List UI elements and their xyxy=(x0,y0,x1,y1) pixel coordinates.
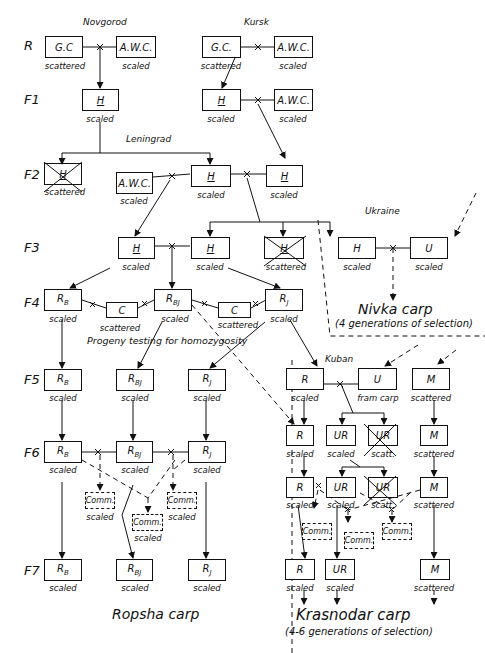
node-kuban-comm-2: Comm. xyxy=(344,532,374,549)
node-f6-comm-3-caption: scaled xyxy=(168,512,195,522)
node-f2-awc-caption: scaled xyxy=(120,196,147,206)
nivka-carp-subtitle: (4 generations of selection) xyxy=(335,318,473,329)
node-kuban-ur-culled-3: UR xyxy=(368,477,398,498)
region-novgorod: Novgorod xyxy=(83,17,127,27)
node-f5-rbj-caption: scaled xyxy=(121,393,148,403)
node-novgorod-gc-caption: scattered xyxy=(45,61,85,71)
node-kuban-ur-culled-2-caption: scatt. xyxy=(371,449,395,459)
node-f5-rb: RB xyxy=(44,369,82,391)
node-f5-rj-caption: scaled xyxy=(193,393,220,403)
generation-label-f2: F2 xyxy=(24,167,40,182)
node-f6-comm-2: Comm. xyxy=(132,514,163,531)
node-f5-rb-caption: scaled xyxy=(49,393,76,403)
node-f3-hybrid-culled: H xyxy=(264,237,304,259)
node-ukraine-hybrid-caption: scaled xyxy=(343,262,370,272)
node-f6-comm-1: Comm. xyxy=(85,492,115,509)
node-f5-rbj: RBJ xyxy=(116,369,154,391)
node-kursk-gc-caption: scattered xyxy=(201,61,241,71)
node-kuban-m-caption: scattered xyxy=(411,393,451,403)
krasnodar-carp-title: Krasnodar carp xyxy=(296,606,410,624)
generation-label-f7: F7 xyxy=(24,563,40,578)
node-kuban-r-2: R xyxy=(286,425,314,446)
node-f6-comm-2-caption: scaled xyxy=(134,533,161,543)
node-f4-c1: C xyxy=(106,302,138,318)
node-f1-hybrid-novgorod: H xyxy=(82,89,119,111)
node-f7-rbj: RBJ xyxy=(116,559,153,581)
node-f7-rb: RB xyxy=(44,559,82,581)
node-kuban-ur-3: UR xyxy=(326,477,356,498)
node-f2-hybrid-culled: H xyxy=(44,163,82,185)
node-f6-rbj-caption: scaled xyxy=(121,465,148,475)
node-kuban-u-caption: fram carp xyxy=(357,393,398,403)
node-f4-rb: RB xyxy=(44,289,82,311)
node-kuban-ur-3-caption: scaled xyxy=(327,500,354,510)
node-kuban-m-2-caption: scattered xyxy=(414,449,454,459)
generation-label-r: R xyxy=(24,38,33,53)
node-f4-rbj: RBJ xyxy=(154,289,192,311)
node-ukraine-u-caption: scaled xyxy=(415,262,442,272)
node-f1-hybrid-novgorod-caption: scaled xyxy=(86,114,113,124)
node-novgorod-awc-caption: scaled xyxy=(122,61,149,71)
region-kursk: Kursk xyxy=(244,17,269,27)
region-ukraine: Ukraine xyxy=(365,206,400,216)
generation-label-f1: F1 xyxy=(24,92,40,107)
node-kuban-m-final: M xyxy=(420,559,450,580)
node-f2-hybrid-a-caption: scaled xyxy=(197,190,224,200)
node-f4-c2: C xyxy=(218,302,251,318)
node-f1-awc: A.W.C. xyxy=(274,89,313,111)
node-kuban-comm-1: Comm. xyxy=(302,523,332,540)
krasnodar-carp-subtitle: (4-6 generations of selection) xyxy=(285,626,433,637)
node-f3-hybrid-culled-caption: scattered xyxy=(266,262,306,272)
node-f4-rj: RJ xyxy=(265,289,303,311)
node-f4-rbj-caption: scaled xyxy=(161,314,188,324)
node-f5-rj: RJ xyxy=(188,369,226,391)
node-f7-rb-caption: scaled xyxy=(49,583,76,593)
node-novgorod-gc: G.C xyxy=(45,36,83,58)
node-kuban-m: M xyxy=(412,368,450,390)
node-f1-hybrid-kursk: H xyxy=(202,89,241,111)
node-ukraine-hybrid: H xyxy=(338,237,376,259)
node-kuban-m-2: M xyxy=(420,425,448,446)
node-kuban-r-final: R xyxy=(285,559,315,580)
node-f6-comm-3: Comm. xyxy=(167,492,197,509)
node-f2-hybrid-culled-caption: scattered xyxy=(45,187,85,197)
region-kuban: Kuban xyxy=(325,354,353,364)
node-kursk-awc-caption: scaled xyxy=(279,61,306,71)
node-f4-rj-caption: scaled xyxy=(270,314,297,324)
node-f1-hybrid-kursk-caption: scaled xyxy=(207,114,234,124)
node-f7-rj-caption: scaled xyxy=(193,583,220,593)
node-kursk-gc: G.C. xyxy=(202,36,241,58)
node-f3-hybrid-b-caption: scaled xyxy=(196,262,223,272)
node-f2-hybrid-b: H xyxy=(266,165,303,187)
node-f3-hybrid-b: H xyxy=(191,237,230,259)
node-f6-rj-caption: scaled xyxy=(193,465,220,475)
node-kuban-m-final-caption: scattered xyxy=(414,583,454,593)
node-f4-c2-caption: scattered xyxy=(218,320,258,330)
node-f7-rj: RJ xyxy=(188,559,226,581)
node-kuban-ur-2: UR xyxy=(326,425,356,446)
ropsha-carp-title: Ropsha carp xyxy=(112,606,199,622)
generation-label-f5: F5 xyxy=(24,372,40,387)
progeny-testing-note: Progeny testing for homozygosity xyxy=(87,335,247,346)
node-f2-hybrid-a: H xyxy=(191,165,231,187)
node-kuban-r-final-caption: scaled xyxy=(286,583,313,593)
node-kuban-r: R xyxy=(286,368,324,390)
generation-label-f6: F6 xyxy=(24,445,40,460)
node-f4-c1-caption: scattered xyxy=(100,323,140,333)
node-ukraine-u: U xyxy=(410,237,448,259)
node-f2-awc: A.W.C. xyxy=(116,172,153,194)
node-f4-rb-caption: scaled xyxy=(49,314,76,324)
node-kuban-ur-culled-3-caption: scatt. xyxy=(371,500,395,510)
node-f6-rb: RB xyxy=(44,441,82,463)
node-f6-rb-caption: scaled xyxy=(49,465,76,475)
node-kuban-ur-final: UR xyxy=(325,559,355,580)
node-kuban-m-3-caption: scattered xyxy=(414,500,454,510)
generation-label-f4: F4 xyxy=(24,295,40,310)
node-f1-awc-caption: scaled xyxy=(279,114,306,124)
node-f6-comm-1-caption: scaled xyxy=(86,512,113,522)
node-kuban-r-2-caption: scaled xyxy=(286,449,313,459)
nivka-carp-title: Nivka carp xyxy=(358,301,433,317)
node-f7-rbj-caption: scaled xyxy=(121,583,148,593)
node-kuban-r-3-caption: scaled xyxy=(286,500,313,510)
node-kuban-comm-3: Comm. xyxy=(382,523,412,540)
